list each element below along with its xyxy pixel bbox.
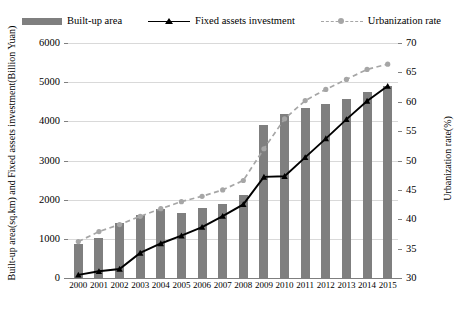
right-tick-label-50: 50 — [406, 156, 436, 167]
x-tick-label-2005: 2005 — [171, 281, 192, 290]
x-tick-label-2007: 2007 — [212, 281, 233, 290]
left-tick-label-5000: 5000 — [16, 77, 60, 88]
right-tick-label-70: 70 — [406, 38, 436, 49]
plot-area — [68, 43, 398, 278]
left-axis-title-text: Built-up area(sq.km) and Fixed assets in… — [6, 36, 17, 280]
left-tick-label-2000: 2000 — [16, 195, 60, 206]
bar-2015 — [383, 86, 392, 278]
bar-2011 — [301, 108, 310, 278]
gridline — [68, 43, 398, 44]
left-tick-mark — [64, 82, 68, 83]
right-tick-label-35: 35 — [406, 244, 436, 255]
x-tick-label-2012: 2012 — [316, 281, 337, 290]
x-tick-label-2006: 2006 — [192, 281, 213, 290]
x-tick-label-2001: 2001 — [89, 281, 110, 290]
bar-2002 — [115, 223, 124, 278]
chart-legend: Built-up area Fixed assets investment Ur… — [0, 10, 463, 32]
x-tick-label-2011: 2011 — [295, 281, 316, 290]
bar-2004 — [156, 209, 165, 278]
chart-container: Built-up area Fixed assets investment Ur… — [0, 0, 463, 311]
x-tick-label-2010: 2010 — [274, 281, 295, 290]
right-tick-label-65: 65 — [406, 67, 436, 78]
right-tick-label-55: 55 — [406, 126, 436, 137]
bar-2014 — [363, 92, 372, 278]
dashed-line-circle-marker-icon — [321, 16, 363, 26]
right-tick-label-30: 30 — [406, 273, 436, 284]
x-tick-label-2002: 2002 — [109, 281, 130, 290]
left-tick-mark — [64, 121, 68, 122]
gridline — [68, 82, 398, 83]
left-tick-mark — [64, 161, 68, 162]
legend-label-fixed-assets-investment: Fixed assets investment — [195, 16, 295, 27]
legend-item-fixed-assets-investment: Fixed assets investment — [148, 16, 295, 27]
bar-2010 — [280, 114, 289, 279]
right-tick-mark — [398, 190, 402, 191]
right-tick-mark — [398, 278, 402, 279]
bar-2003 — [136, 215, 145, 278]
right-tick-mark — [398, 219, 402, 220]
bar-2000 — [74, 244, 83, 278]
left-tick-label-6000: 6000 — [16, 38, 60, 49]
right-tick-mark — [398, 72, 402, 73]
right-tick-mark — [398, 161, 402, 162]
left-tick-mark — [64, 239, 68, 240]
right-axis-title: Urbanization rate(%) — [438, 36, 456, 280]
right-tick-label-45: 45 — [406, 185, 436, 196]
x-tick-label-2013: 2013 — [336, 281, 357, 290]
x-tick-label-2014: 2014 — [357, 281, 378, 290]
bar-2005 — [177, 213, 186, 278]
x-tick-label-2003: 2003 — [130, 281, 151, 290]
bar-2012 — [321, 104, 330, 278]
x-tick-label-2015: 2015 — [377, 281, 398, 290]
line-triangle-marker-icon — [148, 16, 190, 26]
right-tick-mark — [398, 102, 402, 103]
x-tick-label-2009: 2009 — [254, 281, 275, 290]
left-tick-label-0: 0 — [16, 273, 60, 284]
bar-2001 — [94, 238, 103, 278]
x-tick-label-2000: 2000 — [68, 281, 89, 290]
legend-item-built-up-area: Built-up area — [22, 16, 122, 27]
right-tick-mark — [398, 131, 402, 132]
bar-swatch-icon — [22, 18, 62, 25]
right-axis-title-text: Urbanization rate(%) — [442, 116, 453, 201]
left-tick-label-4000: 4000 — [16, 116, 60, 127]
right-tick-label-60: 60 — [406, 97, 436, 108]
bar-2013 — [342, 99, 351, 278]
right-tick-label-40: 40 — [406, 214, 436, 225]
x-axis-line — [68, 278, 398, 279]
x-tick-label-2008: 2008 — [233, 281, 254, 290]
legend-label-urbanization-rate: Urbanization rate — [368, 16, 441, 27]
left-tick-mark — [64, 43, 68, 44]
bar-2007 — [218, 204, 227, 278]
bar-2009 — [259, 125, 268, 278]
bar-2006 — [198, 208, 207, 279]
legend-item-urbanization-rate: Urbanization rate — [321, 16, 441, 27]
left-tick-mark — [64, 278, 68, 279]
right-tick-mark — [398, 43, 402, 44]
left-tick-label-1000: 1000 — [16, 234, 60, 245]
left-tick-label-3000: 3000 — [16, 156, 60, 167]
bar-2008 — [239, 195, 248, 278]
right-tick-mark — [398, 249, 402, 250]
x-tick-label-2004: 2004 — [151, 281, 172, 290]
left-tick-mark — [64, 200, 68, 201]
legend-label-built-up-area: Built-up area — [67, 16, 122, 27]
